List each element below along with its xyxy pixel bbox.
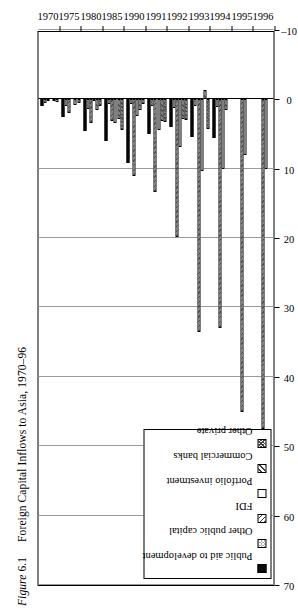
value-axis-label: 40 <box>277 372 297 383</box>
bar-other-1992 <box>185 99 188 120</box>
legend-swatch-fdi <box>258 514 267 523</box>
category-axis-tick <box>59 26 60 31</box>
category-axis-tick <box>102 26 103 31</box>
value-axis-label: 30 <box>277 303 297 314</box>
gridline <box>39 237 274 238</box>
category-axis-tick <box>81 26 82 31</box>
value-axis-label: 0 <box>277 95 297 106</box>
figure-title: Foreign Capital Inflows to Asia, 1970–96 <box>16 347 28 542</box>
legend-swatch-otherpub <box>258 539 267 548</box>
bar-other-1990 <box>142 99 145 104</box>
legend-swatch-other <box>258 439 267 448</box>
gridline <box>39 307 274 308</box>
value-axis-label: 50 <box>277 442 297 453</box>
legend-label-aid: Public aid to development <box>143 551 253 562</box>
gridline <box>39 584 274 585</box>
value-axis-label: 20 <box>277 234 297 245</box>
category-axis-label-1996: 1996 <box>250 11 276 22</box>
figure-number: 6.1 <box>16 557 28 572</box>
figure-caption: Figure 6.1 Foreign Capital Inflows to As… <box>16 347 28 606</box>
bar-other-1993 <box>206 99 209 128</box>
legend-swatch-banks <box>258 464 267 473</box>
legend-label-fdi: FDI <box>236 501 253 512</box>
category-axis-tick <box>275 26 276 31</box>
bar-fdi-1975 <box>68 99 71 113</box>
legend-label-other: Other private <box>197 426 253 437</box>
bar-banks-1993 <box>203 90 206 100</box>
bar-portfolio-1993 <box>200 99 203 170</box>
legend-label-otherpub: Other public capital <box>169 526 252 537</box>
chart-plot-area: Public aid to developmentOther public ca… <box>38 31 275 586</box>
legend-label-banks: Commercial banks <box>173 451 252 462</box>
gridline <box>39 29 274 30</box>
bar-other-1985 <box>120 99 123 130</box>
bar-fdi-1980 <box>89 99 92 123</box>
bar-aid-1990 <box>126 99 129 163</box>
chart-legend: Public aid to developmentOther public ca… <box>144 429 272 579</box>
bar-other-1980 <box>99 99 102 105</box>
bar-banks-1994 <box>225 99 228 110</box>
bar-portfolio-1996 <box>265 99 268 168</box>
legend-swatch-aid <box>258 564 267 573</box>
value-axis-label: 60 <box>277 511 297 522</box>
bar-other-1970 <box>55 99 58 102</box>
gridline <box>39 376 274 377</box>
bar-fdi-1970 <box>46 99 49 101</box>
category-axis-tick <box>124 26 125 31</box>
category-axis-tick <box>188 26 189 31</box>
category-axis-tick <box>167 26 168 31</box>
bar-aid-1985 <box>105 99 108 141</box>
value-axis-label: 10 <box>277 164 297 175</box>
figure-stage: Figure 6.1 Foreign Capital Inflows to As… <box>12 0 298 614</box>
category-axis-tick <box>145 26 146 31</box>
category-axis-tick <box>210 26 211 31</box>
value-axis-label: 70 <box>277 581 297 592</box>
legend-swatch-portfolio <box>258 489 267 498</box>
value-axis-label: –10 <box>277 26 297 37</box>
figure-label: Figure <box>16 575 28 606</box>
bar-other-1991 <box>163 99 166 122</box>
legend-label-portfolio: Portfolio investment <box>166 476 252 487</box>
category-axis-tick <box>231 26 232 31</box>
bar-other-1975 <box>77 99 80 102</box>
category-axis-tick <box>253 26 254 31</box>
bar-portfolio-1995 <box>243 99 246 155</box>
